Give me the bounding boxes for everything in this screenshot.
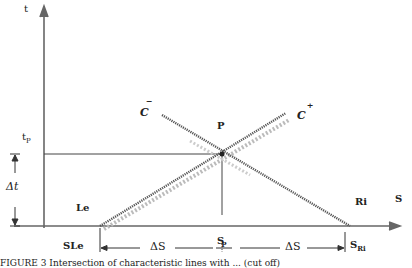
sp-subscript: P [221, 240, 226, 249]
c-minus-sup: − [146, 96, 153, 106]
t-axis-arrowhead [40, 6, 48, 17]
t-axis-label: t [24, 4, 28, 14]
delta-s-right-label: ΔS [285, 241, 300, 252]
tp-label: tP [22, 132, 31, 145]
c-minus-main: C [140, 106, 149, 119]
c-plus-label: C+ [297, 107, 312, 121]
c-plus-sup: + [307, 100, 314, 110]
delta-s-left-label: ΔS [150, 241, 165, 252]
axes [14, 6, 400, 230]
tp-subscript: P [26, 137, 31, 145]
c-minus-label: C− [140, 104, 155, 118]
s-left-label: SLe [63, 241, 84, 251]
s-axis-arrowhead [389, 222, 400, 230]
c-plus-main: C [297, 109, 306, 122]
s-right-label: SRi [350, 240, 366, 252]
right-boundary-label: Ri [355, 197, 367, 207]
figure-caption: FIGURE 3 Intersection of characteristic … [0, 258, 280, 268]
sp-label: SP [217, 236, 230, 248]
left-boundary-label: Le [76, 203, 89, 213]
intersection-point-p [220, 152, 225, 157]
c-plus-line [100, 113, 286, 226]
s-right-subscript: Ri [357, 244, 365, 253]
s-axis-label: S [395, 194, 402, 204]
point-p-label: P [217, 121, 225, 131]
delta-t-label: Δt [6, 181, 18, 192]
